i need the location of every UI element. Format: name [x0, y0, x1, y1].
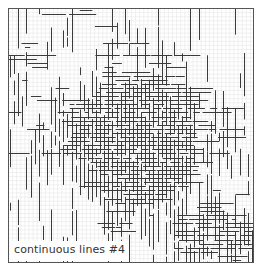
artwork-caption: continuous lines #4 [10, 241, 129, 261]
generative-artwork-canvas [0, 0, 259, 269]
